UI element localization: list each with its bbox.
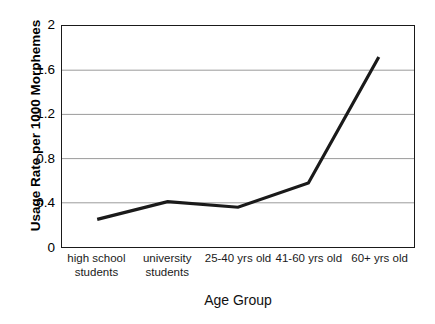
- x-tick-label-line: 25-40 yrs old: [203, 252, 274, 266]
- line-chart-figure: Usage Rate per 1000 Morphemes 21.61.20.8…: [0, 0, 435, 324]
- data-series-group: [97, 57, 379, 219]
- y-tick-label: 0.8: [15, 152, 55, 165]
- x-axis-title: Age Group: [61, 292, 415, 308]
- y-tick-label: 1.6: [15, 63, 55, 76]
- x-tick-label-line: 41-60 yrs old: [273, 252, 344, 266]
- x-tick-label: high schoolstudents: [61, 252, 132, 279]
- plot-svg: [62, 26, 414, 247]
- y-tick-label: 0: [15, 241, 55, 254]
- x-tick-label-line: university: [132, 252, 203, 266]
- y-axis-tick-labels: 21.61.20.80.40: [13, 0, 55, 324]
- y-tick-label: 1.2: [15, 107, 55, 120]
- x-tick-label: 60+ yrs old: [344, 252, 415, 266]
- y-tick-label: 0.4: [15, 196, 55, 209]
- x-tick-label-line: students: [61, 266, 132, 280]
- plot-area: [61, 25, 415, 248]
- x-tick-label-line: students: [132, 266, 203, 280]
- x-tick-label: 41-60 yrs old: [273, 252, 344, 266]
- y-tick-label: 2: [15, 18, 55, 31]
- x-tick-label: universitystudents: [132, 252, 203, 279]
- x-tick-label: 25-40 yrs old: [203, 252, 274, 266]
- series-line: [97, 57, 379, 219]
- x-tick-label-line: 60+ yrs old: [344, 252, 415, 266]
- x-axis-tick-labels: high schoolstudentsuniversitystudents25-…: [61, 252, 415, 292]
- x-tick-label-line: high school: [61, 252, 132, 266]
